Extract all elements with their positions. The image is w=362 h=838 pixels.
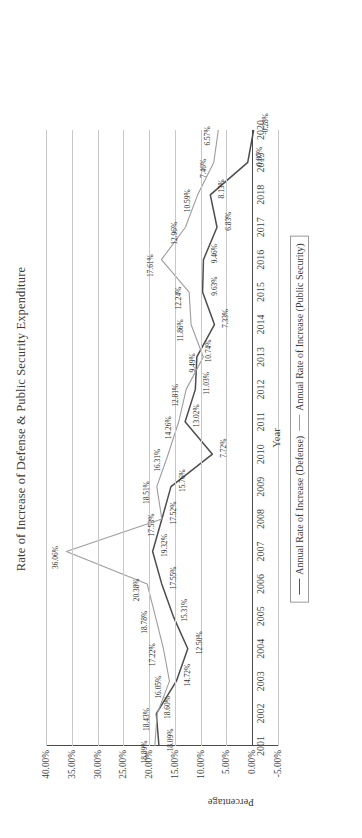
series-lines xyxy=(46,130,278,746)
data-point-label: 36.06% xyxy=(51,546,60,569)
data-point-label: 15.31% xyxy=(180,599,189,622)
data-point-label: 17.55% xyxy=(168,567,177,590)
y-axis-tick-label: 25.00% xyxy=(118,750,128,779)
y-axis-tick-label: -5.00% xyxy=(273,750,283,777)
data-point-label: 9.46% xyxy=(210,244,219,263)
data-point-label: 17.61% xyxy=(146,254,155,277)
x-axis-tick-label: 2007 xyxy=(255,541,266,561)
x-axis-tick-label: 2016 xyxy=(255,250,266,270)
x-axis-tick-label: 2003 xyxy=(255,671,266,691)
data-point-label: 18.43% xyxy=(142,708,151,731)
data-point-label: 8.13% xyxy=(217,179,226,198)
data-point-label: 14.26% xyxy=(163,416,172,439)
legend-item-public-security: Annual Rate of Increase (Public Security… xyxy=(294,243,305,430)
x-axis-tick-label: 2006 xyxy=(255,574,266,594)
x-axis-tick-label: 2018 xyxy=(255,185,266,205)
data-point-label: 18.09% xyxy=(165,729,174,752)
rotated-chart-container: Rate of Increase of Defense & Public Sec… xyxy=(0,0,362,838)
data-point-label: 10.74% xyxy=(203,340,212,363)
y-axis-tick-label: 10.00% xyxy=(196,750,206,779)
data-point-label: -0.28% xyxy=(260,113,269,135)
data-point-label: 6.83% xyxy=(224,212,233,231)
data-point-label: 18.60% xyxy=(163,696,172,719)
data-point-label: 19.32% xyxy=(159,534,168,557)
legend-label-public-security: Annual Rate of Increase (Public Security… xyxy=(294,243,305,410)
x-axis-tick-label: 2014 xyxy=(255,315,266,335)
data-point-label: 12.50% xyxy=(194,631,203,654)
chart-legend: Annual Rate of Increase (Defense) Annual… xyxy=(290,235,309,602)
data-point-label: 17.22% xyxy=(148,643,157,666)
y-axis-title: Percentage xyxy=(208,797,254,808)
legend-item-defense: Annual Rate of Increase (Defense) xyxy=(294,436,305,595)
data-point-label: 15.76% xyxy=(177,469,186,492)
line-chart: Rate of Increase of Defense & Public Sec… xyxy=(0,0,362,838)
y-axis-tick-label: 40.00% xyxy=(41,750,51,779)
x-axis-tick-label: 2009 xyxy=(255,477,266,497)
y-axis-tick-label: 5.00% xyxy=(221,750,231,774)
data-point-label: 13.02% xyxy=(192,404,201,427)
x-axis-tick-label: 2004 xyxy=(255,639,266,659)
data-point-label: 7.72% xyxy=(219,439,228,458)
data-point-label: 0.87% xyxy=(254,147,263,166)
data-point-label: 14.72% xyxy=(183,664,192,687)
data-point-label: 12.81% xyxy=(171,384,180,407)
data-point-label: 7.46% xyxy=(198,159,207,178)
gridline xyxy=(123,130,124,746)
data-point-label: 16.31% xyxy=(153,449,162,472)
x-axis-tick-label: 2005 xyxy=(255,606,266,626)
data-point-label: 10.59% xyxy=(182,189,191,212)
y-axis-tick-label: 30.00% xyxy=(93,750,103,779)
chart-title: Rate of Increase of Defense & Public Sec… xyxy=(14,0,29,838)
y-axis-tick-labels: -5.00%0.00%5.00%10.00%15.00%20.00%25.00%… xyxy=(46,750,278,838)
x-axis-tick-label: 2001 xyxy=(255,736,266,756)
gridline xyxy=(72,130,73,746)
plot-area xyxy=(46,130,278,746)
y-axis-tick-label: 15.00% xyxy=(170,750,180,779)
x-axis-tick-label: 2010 xyxy=(255,444,266,464)
x-axis-line xyxy=(252,130,253,746)
x-axis-tick-label: 2002 xyxy=(255,704,266,724)
data-point-label: 9.63% xyxy=(209,277,218,296)
data-point-label: 20.38% xyxy=(132,579,141,602)
x-axis-tick-label: 2008 xyxy=(255,509,266,529)
x-axis-tick-label: 2017 xyxy=(255,217,266,237)
legend-swatch-icon xyxy=(299,415,300,431)
x-axis-tick-label: 2011 xyxy=(255,412,266,432)
x-axis-tick-label: 2015 xyxy=(255,282,266,302)
data-point-label: 17.52% xyxy=(168,502,177,525)
legend-label-defense: Annual Rate of Increase (Defense) xyxy=(294,436,305,575)
x-axis-tick-label: 2012 xyxy=(255,379,266,399)
data-point-label: 7.33% xyxy=(221,309,230,328)
x-axis-tick-label: 2013 xyxy=(255,347,266,367)
gridline xyxy=(98,130,99,746)
x-axis-title: Year xyxy=(271,130,282,746)
data-point-label: 18.78% xyxy=(140,611,149,634)
data-point-label: 12.96% xyxy=(170,222,179,245)
gridline xyxy=(46,130,47,746)
data-point-label: 18.51% xyxy=(141,481,150,504)
legend-swatch-icon xyxy=(299,579,300,595)
data-point-label: 18.89% xyxy=(139,741,148,764)
y-axis-tick-label: 35.00% xyxy=(67,750,77,779)
data-point-label: 11.86% xyxy=(176,319,185,342)
data-point-label: 9.49% xyxy=(188,353,197,372)
data-point-label: 11.03% xyxy=(202,372,211,395)
data-point-label: 6.57% xyxy=(203,126,212,145)
data-point-label: 16.05% xyxy=(154,676,163,699)
data-point-label: 12.24% xyxy=(174,287,183,310)
data-point-label: 17.53% xyxy=(146,514,155,537)
chart-page: Rate of Increase of Defense & Public Sec… xyxy=(0,0,362,838)
